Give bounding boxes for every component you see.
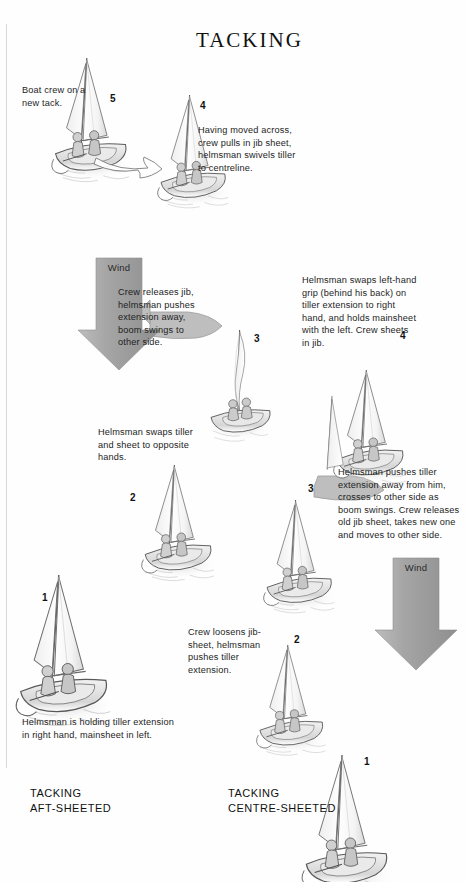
boat-number-centre-2: 2 [294,634,300,645]
note-centre-2: Crew loosens jib-sheet, helmsman pushes … [188,626,282,676]
illustration-page: TACKING [0,0,466,882]
note-aft-5: Boat crew on a new tack. [22,84,102,109]
wind-label-left: Wind [96,262,142,273]
boat-aft-2 [140,465,219,581]
wind-indicator-right: Wind [393,558,439,670]
boat-number-aft-1: 1 [42,592,48,603]
boat-number-aft-3: 3 [254,333,260,344]
boat-number-centre-4: 4 [400,330,406,341]
boat-aft-1 [14,575,117,726]
caption-centre-sheeted: TACKING CENTRE-SHEETED [228,786,336,816]
wind-label-right: Wind [393,562,439,573]
boat-number-aft-2: 2 [130,492,136,503]
boat-aft-3-in-irons [206,330,273,441]
caption-aft-sheeted: TACKING AFT-SHEETED [30,786,111,816]
note-aft-3: Crew releases jib, helmsman pushes exten… [118,286,206,349]
boat-centre-mast-partial [327,396,343,470]
note-aft-1: Helmsman is holding tiller extension in … [22,716,176,741]
caption-centre-line1: TACKING [228,786,336,801]
boat-aft-5 [50,58,135,182]
boat-number-centre-3: 3 [308,483,314,494]
caption-centre-line2: CENTRE-SHEETED [228,801,336,816]
note-aft-4: Having moved across, crew pulls in jib s… [198,124,302,174]
boat-centre-3 [262,500,339,613]
caption-aft-line1: TACKING [30,786,111,801]
boat-centre-1 [300,755,397,882]
boat-number-aft-4: 4 [200,100,206,111]
boat-number-aft-5: 5 [110,93,116,104]
caption-aft-line2: AFT-SHEETED [30,801,111,816]
note-aft-2: Helmsman swaps tiller and sheet to oppos… [98,426,210,464]
note-centre-3: Helmsman pushes tiller extension away fr… [338,466,464,542]
boat-number-centre-1: 1 [364,756,370,767]
